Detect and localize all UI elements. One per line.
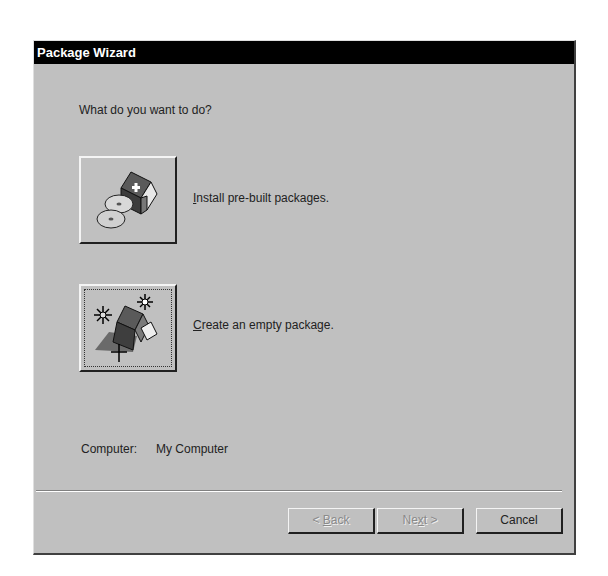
back-button[interactable]: < Back [288,508,375,534]
create-package-button[interactable] [79,284,177,372]
create-package-icon [89,292,169,364]
install-packages-button[interactable] [79,156,177,244]
footer-separator [36,490,562,492]
cancel-button[interactable]: Cancel [476,508,563,534]
install-package-icon [89,164,169,236]
next-button[interactable]: Next > [377,508,464,534]
title-bar[interactable]: Package Wizard [34,41,574,64]
computer-label: Computer: [81,442,137,456]
create-package-label[interactable]: Create an empty package. [193,318,334,332]
computer-value: My Computer [156,442,228,456]
install-packages-label[interactable]: Install pre-built packages. [193,191,329,205]
window-title: Package Wizard [37,45,136,60]
package-wizard-dialog: Package Wizard What do you want to do? I… [33,40,576,555]
prompt-text: What do you want to do? [79,103,212,117]
